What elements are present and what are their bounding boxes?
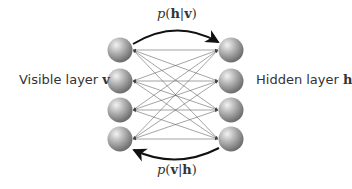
top-arrow — [133, 30, 218, 44]
visible-node — [108, 127, 133, 152]
bottom-arrow — [134, 148, 219, 160]
visible-node — [108, 98, 133, 123]
visible-nodes — [108, 38, 133, 152]
hidden-node — [219, 38, 244, 63]
hidden-layer-label: Hidden layer h — [256, 72, 352, 87]
bottom-arrow-label: p(v|h) — [157, 162, 197, 177]
hidden-node — [219, 127, 244, 152]
hidden-node — [219, 69, 244, 94]
connections — [133, 50, 218, 139]
hidden-nodes — [219, 38, 244, 152]
visible-layer-label: Visible layer v — [19, 72, 110, 87]
top-arrow-label: p(h|v) — [157, 6, 197, 21]
visible-node — [108, 38, 133, 63]
visible-node — [108, 69, 133, 94]
hidden-node — [219, 98, 244, 123]
